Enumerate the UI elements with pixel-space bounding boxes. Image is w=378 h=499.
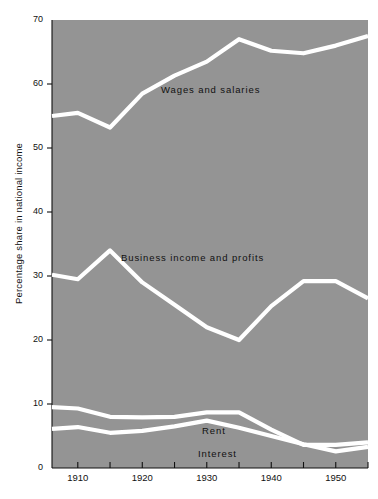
y-tick-label: 10 [13,399,43,408]
chart-figure: Percentage share in national income 0102… [0,0,378,499]
y-tick-label: 60 [13,79,43,88]
y-tick-label: 70 [13,15,43,24]
series-label-interest: Interest [198,448,237,459]
x-tick-label: 1950 [316,473,356,483]
series-label-business: Business income and profits [121,252,264,263]
x-tick-label: 1930 [187,473,227,483]
y-tick-label: 50 [13,143,43,152]
series-label-rent: Rent [202,425,226,436]
y-tick-label: 20 [13,335,43,344]
y-tick-label: 30 [13,271,43,280]
x-tick-label: 1920 [122,473,162,483]
x-tick-label: 1910 [58,473,98,483]
y-tick-label: 40 [13,207,43,216]
x-tick-label: 1940 [251,473,291,483]
y-tick-label: 0 [13,463,43,472]
series-label-wages: Wages and salaries [161,84,260,95]
